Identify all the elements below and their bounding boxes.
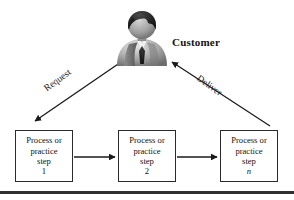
process-box-line1: Process or: [26, 135, 62, 145]
process-box-step-1: Process or practice step 1: [15, 130, 73, 182]
process-box-step-id: 2: [140, 166, 154, 176]
process-box-step-id: 1: [37, 166, 51, 176]
process-box-step-word: step: [140, 156, 154, 166]
process-box-line2: practice: [235, 146, 262, 156]
process-box-step-id: n: [247, 166, 251, 176]
process-box-step-word: step: [37, 156, 51, 166]
process-box-step-2: Process or practice step 2: [118, 130, 176, 182]
process-box-step-line: step 1: [37, 156, 51, 177]
process-box-line2: practice: [30, 146, 57, 156]
process-box-line1: Process or: [231, 135, 267, 145]
process-box-line1: Process or: [129, 135, 165, 145]
customer-person-icon: [114, 8, 170, 66]
process-flow-diagram: Customer Request Deliver Process or prac…: [0, 0, 294, 200]
process-box-step-line: step 2: [140, 156, 154, 177]
process-box-line2: practice: [133, 146, 160, 156]
process-box-step-word: step: [242, 156, 256, 166]
process-box-step-line: step n: [242, 156, 256, 177]
process-box-step-n: Process or practice step n: [220, 130, 278, 182]
customer-label: Customer: [172, 36, 220, 48]
bottom-rule: [0, 191, 294, 194]
